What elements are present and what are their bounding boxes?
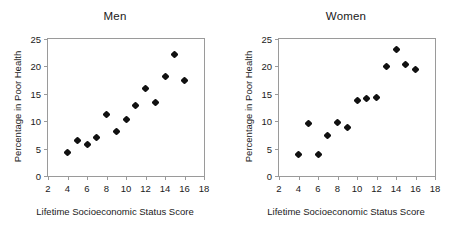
figure-container: Men Percentage in Poor Health 0510152025…: [0, 0, 461, 234]
x-tick-label-women-4: 10: [352, 183, 363, 194]
x-tick-label-men-6: 14: [160, 183, 171, 194]
y-tick-label-men-0: 0: [36, 171, 41, 182]
y-tick-label-women-5: 25: [261, 34, 272, 45]
x-tick-label-women-2: 6: [315, 183, 320, 194]
data-point: [103, 111, 110, 118]
x-tick-label-women-1: 4: [296, 183, 301, 194]
y-tick-women-2: [275, 121, 279, 122]
data-point: [402, 61, 409, 68]
x-tick-women-4: [357, 176, 358, 180]
data-point: [373, 94, 380, 101]
y-tick-men-2: [44, 121, 48, 122]
x-tick-label-women-5: 12: [371, 183, 382, 194]
x-tick-women-3: [338, 176, 339, 180]
data-point: [93, 134, 100, 141]
data-point: [113, 128, 120, 135]
data-point: [412, 66, 419, 73]
data-point: [334, 119, 341, 126]
x-tick-women-8: [435, 176, 436, 180]
data-point: [181, 77, 188, 84]
x-tick-label-men-3: 8: [104, 183, 109, 194]
y-tick-women-5: [275, 39, 279, 40]
data-point: [161, 73, 168, 80]
y-tick-label-men-3: 15: [30, 88, 41, 99]
x-tick-men-6: [165, 176, 166, 180]
chart-panel-men: Men Percentage in Poor Health 0510152025…: [0, 0, 230, 234]
x-tick-label-men-2: 6: [84, 183, 89, 194]
x-tick-women-6: [396, 176, 397, 180]
y-tick-label-women-1: 5: [267, 143, 272, 154]
y-tick-label-women-0: 0: [267, 171, 272, 182]
y-axis-title-men-text: Percentage in Poor Health: [13, 51, 24, 162]
data-point: [132, 102, 139, 109]
data-point: [122, 116, 129, 123]
plot-frame-women: 051015202524681012141618: [278, 38, 436, 177]
y-tick-women-4: [275, 66, 279, 67]
y-tick-label-women-2: 10: [261, 116, 272, 127]
x-tick-men-7: [185, 176, 186, 180]
y-tick-women-1: [275, 149, 279, 150]
panel-title-women: Women: [231, 10, 461, 22]
plot-area-women: 051015202524681012141618: [279, 39, 435, 176]
x-axis-title-women: Lifetime Socioeconomic Status Score: [231, 206, 461, 217]
x-tick-label-women-3: 8: [335, 183, 340, 194]
y-tick-label-men-5: 25: [30, 34, 41, 45]
y-tick-label-women-4: 20: [261, 61, 272, 72]
y-tick-men-5: [44, 39, 48, 40]
x-tick-men-5: [146, 176, 147, 180]
x-tick-men-0: [48, 176, 49, 180]
data-point: [363, 95, 370, 102]
panel-title-men: Men: [0, 10, 230, 22]
data-point: [305, 120, 312, 127]
x-tick-women-1: [299, 176, 300, 180]
data-point: [344, 124, 351, 131]
data-point: [324, 132, 331, 139]
x-tick-label-men-8: 18: [199, 183, 210, 194]
x-tick-label-women-6: 14: [391, 183, 402, 194]
x-tick-label-men-4: 10: [121, 183, 132, 194]
data-point: [142, 85, 149, 92]
data-point: [64, 149, 71, 156]
y-tick-women-3: [275, 94, 279, 95]
x-tick-men-2: [87, 176, 88, 180]
y-tick-men-3: [44, 94, 48, 95]
x-tick-men-8: [204, 176, 205, 180]
x-tick-label-women-8: 18: [430, 183, 441, 194]
data-point: [295, 151, 302, 158]
y-tick-men-4: [44, 66, 48, 67]
data-point: [83, 141, 90, 148]
plot-area-men: 051015202524681012141618: [48, 39, 204, 176]
x-tick-label-men-1: 4: [65, 183, 70, 194]
data-point: [152, 99, 159, 106]
x-tick-women-7: [416, 176, 417, 180]
data-point: [74, 137, 81, 144]
y-tick-label-men-1: 5: [36, 143, 41, 154]
data-point: [314, 151, 321, 158]
data-point: [353, 97, 360, 104]
data-point: [171, 51, 178, 58]
x-tick-women-2: [318, 176, 319, 180]
x-tick-men-3: [107, 176, 108, 180]
y-tick-label-men-4: 20: [30, 61, 41, 72]
x-tick-label-men-0: 2: [45, 183, 50, 194]
x-tick-label-women-0: 2: [276, 183, 281, 194]
x-axis-title-men: Lifetime Socioeconomic Status Score: [0, 206, 230, 217]
x-tick-label-men-7: 16: [179, 183, 190, 194]
y-axis-title-men: Percentage in Poor Health: [12, 38, 24, 175]
x-tick-women-5: [377, 176, 378, 180]
x-tick-men-4: [126, 176, 127, 180]
x-tick-men-1: [68, 176, 69, 180]
y-axis-title-women-text: Percentage in Poor Health: [244, 51, 255, 162]
y-tick-men-1: [44, 149, 48, 150]
y-tick-label-women-3: 15: [261, 88, 272, 99]
y-axis-title-women: Percentage in Poor Health: [243, 38, 255, 175]
data-point: [383, 63, 390, 70]
chart-panel-women: Women Percentage in Poor Health 05101520…: [231, 0, 461, 234]
y-tick-label-men-2: 10: [30, 116, 41, 127]
data-point: [392, 46, 399, 53]
x-tick-women-0: [279, 176, 280, 180]
x-tick-label-women-7: 16: [410, 183, 421, 194]
x-tick-label-men-5: 12: [140, 183, 151, 194]
plot-frame-men: 051015202524681012141618: [47, 38, 205, 177]
